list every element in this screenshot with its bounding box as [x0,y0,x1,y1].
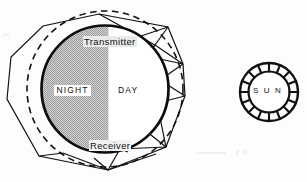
sun-label: S U N [253,87,282,95]
receiver-label: Receiver [89,140,131,151]
night-label: NIGHT [54,85,91,96]
diagram-canvas: Transmitter Receiver NIGHT DAY S U N [0,0,307,182]
day-label: DAY [118,86,138,95]
transmitter-label: Transmitter [83,36,137,47]
